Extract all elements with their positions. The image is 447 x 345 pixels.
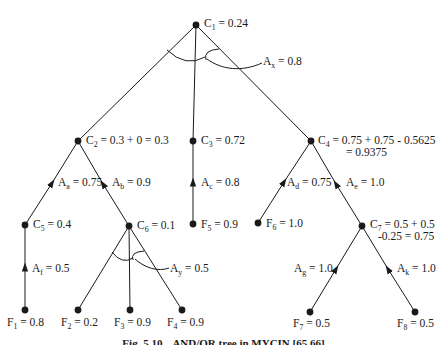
node-label-f3: F3 = 0.9 xyxy=(114,316,151,328)
node-label-c2: C2 = 0.3 + 0 = 0.3 xyxy=(86,134,169,146)
edge-c6-f2 xyxy=(78,226,129,310)
node-label-f8: F8 = 0.5 xyxy=(397,317,434,329)
node-dot-f6 xyxy=(255,220,262,227)
edge-label-ae: Ae = 1.0 xyxy=(346,176,384,188)
node-label-c6: C6 = 0.1 xyxy=(137,219,175,231)
node-label-c7-line2: -0.25 = 0.75 xyxy=(370,230,435,242)
node-label-f7: F7 = 0.5 xyxy=(293,317,330,329)
node-dot-f4 xyxy=(179,307,186,314)
node-label-c7: C7 = 0.5 + 0.5-0.25 = 0.75 xyxy=(370,218,435,242)
tree-diagram xyxy=(0,0,447,345)
edge-c6-f3 xyxy=(129,226,130,310)
node-label-c4: C4 = 0.75 + 0.75 - 0.5625= 0.9375 xyxy=(318,134,436,158)
node-dot-c5 xyxy=(22,222,29,229)
node-dot-f1 xyxy=(22,307,29,314)
node-label-f5: F5 = 0.9 xyxy=(201,218,238,230)
node-label-c1: C1 = 0.24 xyxy=(204,17,248,29)
edge-label-ax: Ax = 0.8 xyxy=(263,55,302,67)
node-dot-f2 xyxy=(75,307,82,314)
edge-label-ak: Ak = 1.0 xyxy=(397,262,436,274)
node-dot-f3 xyxy=(127,307,134,314)
node-label-f6: F6 = 1.0 xyxy=(266,217,303,229)
node-dot-c7 xyxy=(359,223,366,230)
and-arc-c1 xyxy=(167,50,205,61)
node-label-c4-line2: = 0.9375 xyxy=(318,146,436,158)
figure-and-or-tree: C1 = 0.24 C2 = 0.3 + 0 = 0.3 C3 = 0.72 C… xyxy=(0,0,447,345)
edge-label-af: Af = 0.5 xyxy=(32,262,70,274)
node-label-f1: F1 = 0.8 xyxy=(7,316,44,328)
node-dot-f5 xyxy=(190,221,197,228)
and-arc-c6-hook xyxy=(132,251,144,260)
figure-caption-number: Fig. 5.10 xyxy=(122,337,162,345)
node-dot-c6 xyxy=(126,223,133,230)
node-label-f2: F2 = 0.2 xyxy=(61,316,98,328)
edge-label-ad: Ad = 0.75 xyxy=(287,176,332,188)
edge-label-ag: Ag = 1.0 xyxy=(294,262,333,274)
node-dot-c3 xyxy=(190,138,197,145)
node-dot-f8 xyxy=(412,309,419,316)
figure-caption-title: AND/OR tree in MYCIN [65,66] xyxy=(172,337,324,345)
edge-c1-c3 xyxy=(193,25,196,141)
and-arc-c1-hook xyxy=(206,49,219,60)
edge-c1-c4 xyxy=(196,25,311,141)
edge-label-ac: Ac = 0.8 xyxy=(201,176,239,188)
and-arc-c6-leader xyxy=(135,259,169,270)
and-arcs xyxy=(112,49,262,270)
node-dot-c2 xyxy=(75,138,82,145)
tree-edges xyxy=(25,25,415,312)
node-label-f4: F4 = 0.9 xyxy=(167,316,204,328)
node-label-c5: C5 = 0.4 xyxy=(33,218,71,230)
edge-label-ab: Ab = 0.9 xyxy=(112,176,151,188)
edge-label-ay: Ay = 0.5 xyxy=(170,262,209,274)
node-dot-c1 xyxy=(193,22,200,29)
node-dot-f7 xyxy=(307,309,314,316)
node-label-c3: C3 = 0.72 xyxy=(201,134,245,146)
node-dot-c4 xyxy=(308,138,315,145)
edge-label-aa: Aa = 0.75 xyxy=(58,176,102,188)
figure-caption: Fig. 5.10AND/OR tree in MYCIN [65,66] xyxy=(0,337,447,345)
edge-c1-c2 xyxy=(78,25,196,141)
